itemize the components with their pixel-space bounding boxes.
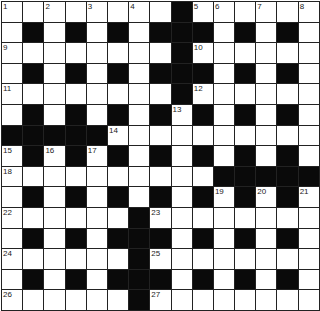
crossword-cell[interactable] xyxy=(23,43,43,63)
crossword-cell[interactable] xyxy=(235,84,255,104)
crossword-cell[interactable] xyxy=(299,290,319,310)
crossword-cell[interactable] xyxy=(44,105,64,125)
crossword-cell[interactable] xyxy=(277,84,297,104)
crossword-cell[interactable] xyxy=(108,84,128,104)
crossword-cell[interactable] xyxy=(193,126,213,146)
crossword-cell[interactable]: 3 xyxy=(87,2,107,22)
crossword-cell[interactable] xyxy=(256,126,276,146)
crossword-cell[interactable] xyxy=(299,146,319,166)
crossword-cell[interactable] xyxy=(172,229,192,249)
crossword-cell[interactable] xyxy=(277,43,297,63)
crossword-cell[interactable]: 10 xyxy=(193,43,213,63)
crossword-cell[interactable]: 1 xyxy=(2,2,22,22)
crossword-cell[interactable] xyxy=(172,249,192,269)
crossword-cell[interactable] xyxy=(214,229,234,249)
crossword-cell[interactable] xyxy=(2,229,22,249)
crossword-cell[interactable] xyxy=(66,2,86,22)
crossword-cell[interactable] xyxy=(277,126,297,146)
crossword-cell[interactable] xyxy=(214,249,234,269)
crossword-cell[interactable] xyxy=(235,208,255,228)
crossword-cell[interactable] xyxy=(129,64,149,84)
crossword-cell[interactable] xyxy=(256,84,276,104)
crossword-cell[interactable] xyxy=(256,229,276,249)
crossword-cell[interactable] xyxy=(299,270,319,290)
crossword-cell[interactable]: 15 xyxy=(2,146,22,166)
crossword-cell[interactable] xyxy=(150,2,170,22)
crossword-cell[interactable] xyxy=(129,187,149,207)
crossword-cell[interactable] xyxy=(277,290,297,310)
crossword-cell[interactable]: 24 xyxy=(2,249,22,269)
crossword-cell[interactable] xyxy=(299,23,319,43)
crossword-cell[interactable]: 23 xyxy=(150,208,170,228)
crossword-cell[interactable] xyxy=(87,167,107,187)
crossword-cell[interactable] xyxy=(299,64,319,84)
crossword-cell[interactable]: 14 xyxy=(108,126,128,146)
crossword-cell[interactable] xyxy=(44,270,64,290)
crossword-cell[interactable] xyxy=(214,146,234,166)
crossword-cell[interactable] xyxy=(256,270,276,290)
crossword-cell[interactable]: 7 xyxy=(256,2,276,22)
crossword-cell[interactable] xyxy=(150,167,170,187)
crossword-cell[interactable]: 21 xyxy=(299,187,319,207)
crossword-cell[interactable] xyxy=(235,2,255,22)
crossword-cell[interactable] xyxy=(256,146,276,166)
crossword-cell[interactable] xyxy=(87,270,107,290)
crossword-cell[interactable] xyxy=(108,290,128,310)
crossword-cell[interactable] xyxy=(299,208,319,228)
crossword-cell[interactable]: 12 xyxy=(193,84,213,104)
crossword-cell[interactable] xyxy=(193,167,213,187)
crossword-cell[interactable] xyxy=(44,229,64,249)
crossword-cell[interactable] xyxy=(129,105,149,125)
crossword-cell[interactable] xyxy=(129,43,149,63)
crossword-cell[interactable] xyxy=(87,187,107,207)
crossword-cell[interactable] xyxy=(172,167,192,187)
crossword-cell[interactable]: 4 xyxy=(129,2,149,22)
crossword-cell[interactable] xyxy=(44,290,64,310)
crossword-cell[interactable] xyxy=(129,23,149,43)
crossword-cell[interactable] xyxy=(193,290,213,310)
crossword-cell[interactable] xyxy=(108,249,128,269)
crossword-cell[interactable] xyxy=(172,290,192,310)
crossword-cell[interactable] xyxy=(214,105,234,125)
crossword-cell[interactable] xyxy=(235,126,255,146)
crossword-cell[interactable] xyxy=(87,23,107,43)
crossword-cell[interactable] xyxy=(299,84,319,104)
crossword-cell[interactable] xyxy=(256,249,276,269)
crossword-cell[interactable] xyxy=(256,105,276,125)
crossword-cell[interactable] xyxy=(299,126,319,146)
crossword-cell[interactable] xyxy=(129,167,149,187)
crossword-cell[interactable]: 26 xyxy=(2,290,22,310)
crossword-cell[interactable] xyxy=(235,290,255,310)
crossword-cell[interactable] xyxy=(256,64,276,84)
crossword-cell[interactable]: 17 xyxy=(87,146,107,166)
crossword-cell[interactable] xyxy=(172,126,192,146)
crossword-cell[interactable] xyxy=(44,84,64,104)
crossword-cell[interactable] xyxy=(23,2,43,22)
crossword-cell[interactable]: 11 xyxy=(2,84,22,104)
crossword-cell[interactable] xyxy=(193,208,213,228)
crossword-cell[interactable] xyxy=(214,270,234,290)
crossword-cell[interactable]: 2 xyxy=(44,2,64,22)
crossword-cell[interactable] xyxy=(44,64,64,84)
crossword-cell[interactable] xyxy=(299,249,319,269)
crossword-cell[interactable] xyxy=(299,229,319,249)
crossword-cell[interactable]: 16 xyxy=(44,146,64,166)
crossword-cell[interactable] xyxy=(2,64,22,84)
crossword-cell[interactable] xyxy=(150,43,170,63)
crossword-cell[interactable] xyxy=(23,290,43,310)
crossword-cell[interactable] xyxy=(23,84,43,104)
crossword-cell[interactable] xyxy=(66,249,86,269)
crossword-cell[interactable] xyxy=(214,208,234,228)
crossword-cell[interactable] xyxy=(150,126,170,146)
crossword-cell[interactable] xyxy=(172,146,192,166)
crossword-cell[interactable]: 13 xyxy=(172,105,192,125)
crossword-cell[interactable] xyxy=(44,249,64,269)
crossword-cell[interactable] xyxy=(2,23,22,43)
crossword-cell[interactable] xyxy=(44,187,64,207)
crossword-cell[interactable] xyxy=(23,249,43,269)
crossword-cell[interactable]: 18 xyxy=(2,167,22,187)
crossword-cell[interactable] xyxy=(277,2,297,22)
crossword-cell[interactable] xyxy=(214,64,234,84)
crossword-cell[interactable] xyxy=(23,208,43,228)
crossword-cell[interactable] xyxy=(214,126,234,146)
